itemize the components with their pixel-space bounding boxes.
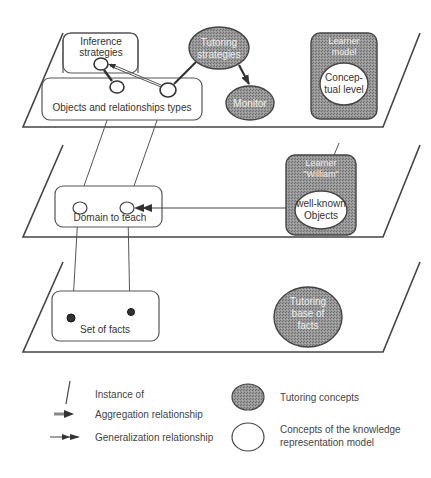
- relationship-concept-node[interactable]: [160, 83, 176, 97]
- set-of-facts-label: Set of facts: [80, 324, 130, 335]
- legend: Instance of Aggregation relationship Gen…: [50, 381, 401, 451]
- tutoring-strategies-label-2: strategies: [197, 49, 240, 60]
- fact-node[interactable]: [67, 314, 75, 322]
- diagram-canvas: Inference strategies Objects and relatio…: [0, 0, 431, 478]
- domain-concept-node[interactable]: [120, 202, 134, 214]
- tutoring-base-label-1: Tutoring: [290, 296, 326, 307]
- legend-krm-concepts-2: representation model: [280, 437, 374, 448]
- tutoring-base-label-2: base of: [292, 308, 325, 319]
- inference-strategies-label-2: strategies: [79, 47, 122, 58]
- conceptual-level-label-1: Concep-: [325, 72, 363, 83]
- legend-krm-concepts-1: Concepts of the knowledge: [280, 424, 401, 435]
- learner-william-label-1: Learner: [305, 158, 336, 168]
- aggregation-legend-icon: [54, 410, 74, 418]
- learner-william-label-2: "William": [303, 169, 338, 179]
- domain-concept-node[interactable]: [73, 202, 87, 214]
- tutoring-concepts-legend-icon: [232, 384, 264, 410]
- well-known-objects-label-1: well-known: [295, 198, 345, 209]
- legend-tutoring-concepts: Tutoring concepts: [280, 392, 359, 403]
- tutoring-strategies-node[interactable]: Tutoring strategies: [189, 27, 249, 69]
- inference-concept-node[interactable]: [94, 58, 108, 70]
- tutoring-base-of-facts-node[interactable]: Tutoring base of facts: [274, 287, 342, 347]
- fact-node[interactable]: [128, 309, 135, 316]
- tutoring-strategies-label-1: Tutoring: [201, 37, 237, 48]
- learner-model-label-1: Learner: [328, 36, 359, 46]
- legend-generalization: Generalization relationship: [95, 432, 214, 443]
- generalization-legend-icon: [50, 434, 80, 440]
- conceptual-level-label-2: tual level: [324, 84, 363, 95]
- learner-model-box[interactable]: Learner model Concep- tual level: [311, 33, 377, 119]
- legend-instance-of: Instance of: [95, 389, 144, 400]
- krm-concepts-legend-icon: [232, 423, 264, 451]
- domain-to-teach-label: Domain to teach: [74, 212, 147, 223]
- aggregation-arrow: [239, 65, 249, 84]
- learner-model-label-2: model: [332, 47, 357, 57]
- instance-of-legend-icon: [66, 381, 70, 404]
- well-known-objects-label-2: Objects: [304, 210, 338, 221]
- tutoring-base-label-3: facts: [297, 320, 318, 331]
- learner-william-box[interactable]: Learner "William" well-known Objects: [286, 155, 356, 235]
- object-concept-node[interactable]: [110, 81, 124, 93]
- inference-strategies-label-1: Inference: [80, 36, 122, 47]
- monitor-node[interactable]: Monitor: [226, 86, 274, 120]
- legend-aggregation: Aggregation relationship: [95, 409, 203, 420]
- monitor-label: Monitor: [233, 98, 267, 109]
- objects-relationships-label: Objects and relationships types: [53, 102, 192, 113]
